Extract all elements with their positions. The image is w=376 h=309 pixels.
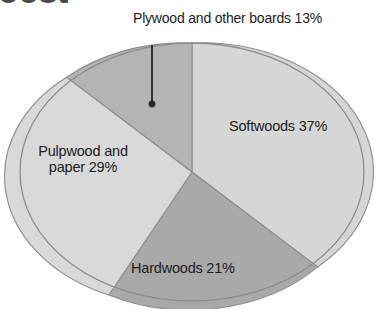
leader-dot-plywood [149,101,156,108]
slice-label-plywood-and-other-boards: Plywood and other boards 13% [133,10,322,26]
slice-label-pulpwood-line-2: paper 29% [16,159,150,175]
pie-chart-figure: oost Plywood and other boards 13% Softwo… [0,0,376,309]
slice-label-pulpwood-line-1: Pulpwood and [16,143,150,159]
slice-label-pulpwood-and-paper: Pulpwood and paper 29% [16,143,150,175]
slice-label-hardwoods: Hardwoods 21% [131,260,235,276]
slice-label-softwoods: Softwoods 37% [229,118,327,134]
